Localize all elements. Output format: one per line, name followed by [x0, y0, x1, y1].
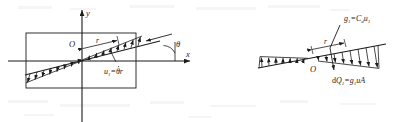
x-axis-label: x: [185, 49, 190, 59]
radius-label-left: r: [96, 36, 99, 45]
svg-text:u1=θr: u1=θr: [104, 67, 124, 77]
figure-root: y x: [0, 0, 396, 122]
y-axis-label: y: [85, 8, 90, 18]
elemental-flow-uA: uA: [356, 76, 365, 85]
drag-envelope-left: [260, 57, 308, 59]
theta-dot-accent: [118, 66, 119, 67]
radius-tick-left: [117, 36, 119, 45]
drag-intensity-u-sub: 1: [368, 19, 371, 24]
drag-envelope-left-cap: [259, 57, 260, 69]
theta-leader: [146, 34, 172, 41]
velocity-label-left: u1=θr: [104, 66, 124, 77]
origin-label-left: O: [69, 39, 75, 49]
theta-arc: [164, 46, 176, 54]
elemental-flow-eq-g: =g: [344, 76, 353, 85]
radius-dimension-right: [312, 43, 344, 50]
diagram-canvas: y x: [0, 0, 396, 122]
elemental-flow-label: dQ1=g1uA: [332, 76, 365, 86]
drag-envelope-right-cap: [378, 46, 379, 69]
right-panel: O r g1=Cdu1 dQ1=g1uA: [258, 14, 386, 86]
origin-label-right: O: [310, 64, 316, 74]
drag-intensity-eq-c: =C: [351, 14, 362, 23]
elemental-flow-leader: [330, 48, 334, 70]
velocity-expression: =θr: [111, 67, 124, 76]
radius-label-right: r: [324, 37, 327, 46]
drag-envelope-right: [318, 61, 379, 68]
drag-intensity-label: g1=Cdu1: [344, 14, 370, 24]
radius-tick-right-end: [344, 39, 346, 47]
radius-dimension-left: [83, 41, 117, 49]
theta-label: θ: [176, 39, 180, 49]
radius-tick-right-start: [311, 46, 313, 54]
velocity-envelope-left: [26, 61, 82, 83]
